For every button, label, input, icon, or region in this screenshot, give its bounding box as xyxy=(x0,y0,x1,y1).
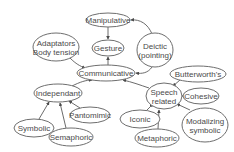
edge-pantomimic-to-independant xyxy=(69,101,80,108)
node-modalizing: Modalizingsymbolic xyxy=(182,108,228,142)
node-label: Semaphoric xyxy=(50,133,93,142)
node-label: Pantomimic xyxy=(69,111,111,120)
node-symbolic: Symbolic xyxy=(14,119,54,137)
edge-modalizing-to-speech xyxy=(177,104,190,110)
node-pantomimic: Pantomimic xyxy=(69,107,111,123)
node-semaphoric: Semaphoric xyxy=(49,128,93,146)
node-label: Manipulative xyxy=(86,16,131,25)
node-label: Metaphoric xyxy=(137,134,177,143)
edge-deictic-to-communicative xyxy=(136,67,152,73)
node-label: Cohesive xyxy=(184,92,218,101)
node-label: related xyxy=(152,97,176,106)
node-label: Adaptators xyxy=(37,39,76,48)
edge-adaptators-to-communicative xyxy=(70,58,85,68)
node-label: Independant xyxy=(36,89,81,98)
node-label: Body tension xyxy=(33,48,79,57)
node-butterworths: Butterworth's xyxy=(170,66,226,82)
edge-deictic-to-manipulative xyxy=(131,20,152,34)
node-label: Deictic xyxy=(143,42,167,51)
edge-independant-to-communicative xyxy=(72,80,92,86)
edge-symbolic-to-independant xyxy=(39,102,49,119)
node-label: Gesture xyxy=(94,44,123,53)
node-label: Iconic xyxy=(130,115,151,124)
edge-semaphoric-to-independant xyxy=(60,103,66,128)
node-label: Modalizing xyxy=(186,117,224,126)
node-label: Butterworth's xyxy=(175,70,221,79)
node-label: Communicative xyxy=(78,69,134,78)
node-independant: Independant xyxy=(34,84,82,102)
node-label: Symbolic xyxy=(18,124,50,133)
edge-speech-to-communicative xyxy=(123,80,149,88)
node-gesture: Gesture xyxy=(92,40,124,56)
node-label: (pointing) xyxy=(138,51,172,60)
node-iconic: Iconic xyxy=(120,110,160,128)
nodes-layer: ManipulativeGestureAdaptatorsBody tensio… xyxy=(14,13,228,147)
node-communicative: Communicative xyxy=(77,65,135,81)
node-speech: Speechrelated xyxy=(146,83,182,109)
node-cohesive: Cohesive xyxy=(183,88,219,104)
gesture-taxonomy-diagram: ManipulativeGestureAdaptatorsBody tensio… xyxy=(0,0,234,152)
node-manipulative: Manipulative xyxy=(86,13,131,27)
node-label: symbolic xyxy=(189,126,220,135)
node-metaphoric: Metaphoric xyxy=(135,129,179,147)
node-deictic: Deictic(pointing) xyxy=(137,33,173,67)
node-label: Speech xyxy=(150,88,177,97)
node-adaptators: AdaptatorsBody tension xyxy=(33,33,79,61)
